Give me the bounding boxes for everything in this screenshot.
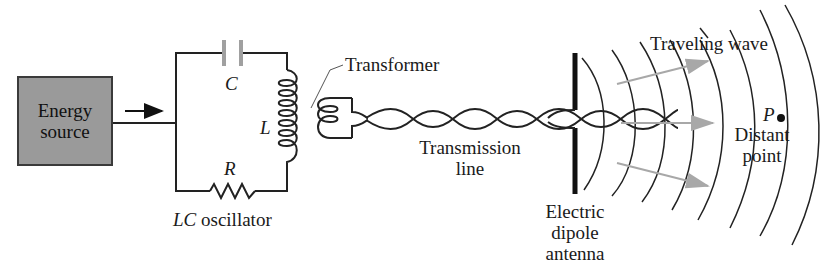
transformer-leader bbox=[311, 70, 330, 108]
antenna-line2: dipole bbox=[530, 222, 620, 243]
inductor-coil-icon bbox=[279, 70, 297, 175]
antenna-line1: Electric bbox=[530, 201, 620, 222]
lc-italic: LC bbox=[173, 209, 196, 230]
traveling-wave-arrows bbox=[617, 61, 713, 186]
distant-point-line2: point bbox=[722, 145, 802, 166]
transformer-label: Transformer bbox=[345, 54, 439, 75]
resistor-label: R bbox=[224, 158, 236, 179]
energy-source-line2: source bbox=[40, 121, 90, 142]
transmission-line-twisted bbox=[366, 109, 678, 129]
point-p-label: P bbox=[763, 104, 775, 125]
inductor-label: L bbox=[260, 117, 271, 138]
distant-point-label: Distant point bbox=[722, 124, 802, 166]
capacitor-label: C bbox=[225, 73, 238, 94]
distant-point-line1: Distant bbox=[722, 124, 802, 145]
transmission-line-label: Transmission line bbox=[400, 137, 540, 179]
distant-point-dot bbox=[777, 114, 785, 122]
traveling-wave-label: Traveling wave bbox=[650, 33, 768, 54]
capacitor-icon bbox=[222, 40, 243, 66]
antenna-line3: antenna bbox=[530, 243, 620, 264]
transmission-line-line2: line bbox=[400, 158, 540, 179]
transformer-secondary-icon bbox=[318, 98, 368, 138]
lc-oscillator-caption: LC oscillator bbox=[173, 209, 272, 230]
transmission-line-line1: Transmission bbox=[400, 137, 540, 158]
oscillator-word: oscillator bbox=[196, 209, 271, 230]
source-connection bbox=[113, 111, 176, 123]
energy-source-line1: Energy bbox=[38, 100, 93, 121]
antenna-label: Electric dipole antenna bbox=[530, 201, 620, 264]
energy-source-box: Energy source bbox=[17, 76, 113, 166]
